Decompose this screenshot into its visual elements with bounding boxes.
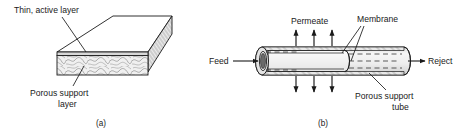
label-porous-support-layer-line1: Porous support bbox=[30, 88, 89, 98]
label-porous-support-layer-line2: layer bbox=[58, 99, 77, 109]
porous-support-body bbox=[57, 56, 148, 75]
label-porous-support-tube-line2: tube bbox=[392, 102, 409, 112]
figure-canvas: Thin, active layer Porous support layer … bbox=[0, 0, 454, 133]
tube-cutaway-bore bbox=[268, 51, 350, 72]
panel-a-group: Thin, active layer Porous support layer … bbox=[14, 5, 172, 128]
tube-wall-lower-rim bbox=[262, 72, 404, 76]
tube-wall-upper-rim bbox=[262, 47, 404, 51]
label-permeate: Permeate bbox=[291, 16, 328, 26]
leader-porous-support-tube bbox=[369, 73, 386, 90]
label-porous-support-tube-line1: Porous support bbox=[355, 91, 414, 101]
membrane-figure: Thin, active layer Porous support layer … bbox=[0, 0, 454, 133]
permeate-arrows-down bbox=[296, 76, 332, 92]
caption-panel-b: (b) bbox=[318, 119, 328, 128]
caption-panel-a: (a) bbox=[96, 119, 106, 128]
active-layer-band bbox=[57, 52, 148, 56]
panel-b-group: Feed Reject Permeate Membrane Porous sup… bbox=[209, 14, 453, 128]
label-membrane: Membrane bbox=[357, 14, 398, 24]
permeate-arrows-up bbox=[296, 30, 332, 46]
tube-left-end-membrane-ring bbox=[261, 53, 266, 68]
label-reject: Reject bbox=[428, 56, 453, 66]
label-thin-active-layer: Thin, active layer bbox=[14, 5, 79, 15]
label-feed: Feed bbox=[209, 56, 229, 66]
